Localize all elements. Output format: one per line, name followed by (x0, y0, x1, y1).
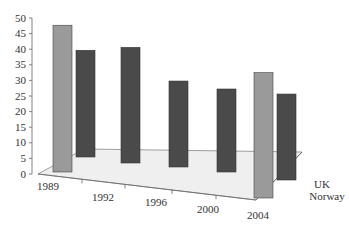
chart: 05101520253035404550 1989199219962000200… (0, 0, 349, 232)
bar-uk-2004 (254, 73, 273, 198)
y-tick-label: 0 (21, 168, 27, 180)
y-tick-label: 40 (15, 43, 27, 55)
y-tick-label: 5 (21, 152, 27, 164)
x-category-label: 1989 (37, 180, 60, 192)
y-tick-label: 15 (15, 121, 27, 133)
y-tick-label: 25 (15, 90, 27, 102)
y-tick-label: 10 (15, 136, 27, 148)
y-tick-label: 20 (15, 105, 27, 117)
x-category-label: 2004 (247, 209, 270, 221)
bar-uk-1989 (53, 25, 72, 172)
y-tick-label: 45 (15, 27, 27, 39)
x-category-label: 1992 (92, 191, 114, 203)
y-tick-label: 35 (15, 58, 27, 70)
x-category-label: 2000 (197, 203, 220, 215)
bar-norway-2000 (217, 89, 236, 172)
y-tick-label: 30 (15, 74, 27, 86)
legend-norway: Norway (309, 190, 345, 202)
bar-norway-1989 (76, 50, 95, 157)
legend-uk: UK (314, 178, 330, 190)
bar-norway-2004 (277, 94, 296, 180)
y-tick-label: 50 (15, 12, 27, 24)
x-category-label: 1996 (145, 196, 168, 208)
bar-norway-1996 (169, 81, 188, 167)
bar-norway-1992 (121, 47, 140, 163)
